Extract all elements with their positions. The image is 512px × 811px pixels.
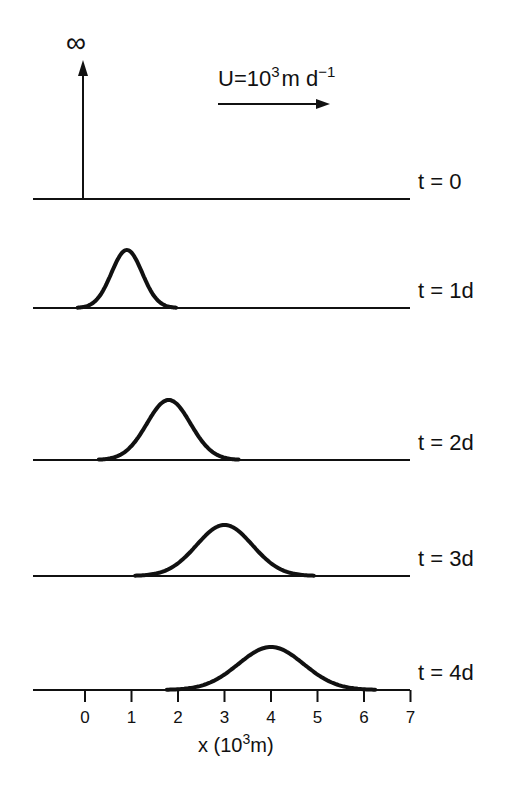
x-tick-label: 3	[220, 708, 229, 727]
concentration-curve-t=1d	[78, 250, 176, 308]
infinity-symbol: ∞	[66, 27, 86, 58]
x-tick-label: 0	[80, 708, 89, 727]
concentration-curve-t=3d	[135, 525, 314, 576]
x-tick-label: 2	[173, 708, 182, 727]
velocity-arrow-icon	[218, 99, 330, 109]
time-label-t=2d: t = 2d	[418, 430, 474, 455]
x-tick-label: 4	[266, 708, 275, 727]
time-labels: t = 0t = 1dt = 2dt = 3dt = 4d	[418, 169, 474, 685]
concentration-curve-t=4d	[167, 647, 375, 690]
time-label-t=3d: t = 3d	[418, 546, 474, 571]
x-tick-label: 1	[127, 708, 136, 727]
delta-spike-arrow	[78, 60, 88, 199]
x-axis-label: x (103m)	[198, 731, 274, 756]
advection-diffusion-diagram: ∞ U=103m d−1 t = 0t = 1dt = 2dt = 3dt = …	[0, 0, 512, 811]
velocity-label: U=103m d−1	[218, 63, 335, 91]
x-tick-label: 6	[359, 708, 368, 727]
concentration-curve-t=2d	[99, 400, 239, 460]
x-tick-label: 5	[313, 708, 322, 727]
profile-curves	[33, 199, 410, 690]
time-label-t=1d: t = 1d	[418, 278, 474, 303]
time-label-t=4d: t = 4d	[418, 660, 474, 685]
time-label-t=0: t = 0	[418, 169, 461, 194]
x-axis: 01234567	[80, 690, 415, 727]
x-tick-label: 7	[406, 708, 415, 727]
